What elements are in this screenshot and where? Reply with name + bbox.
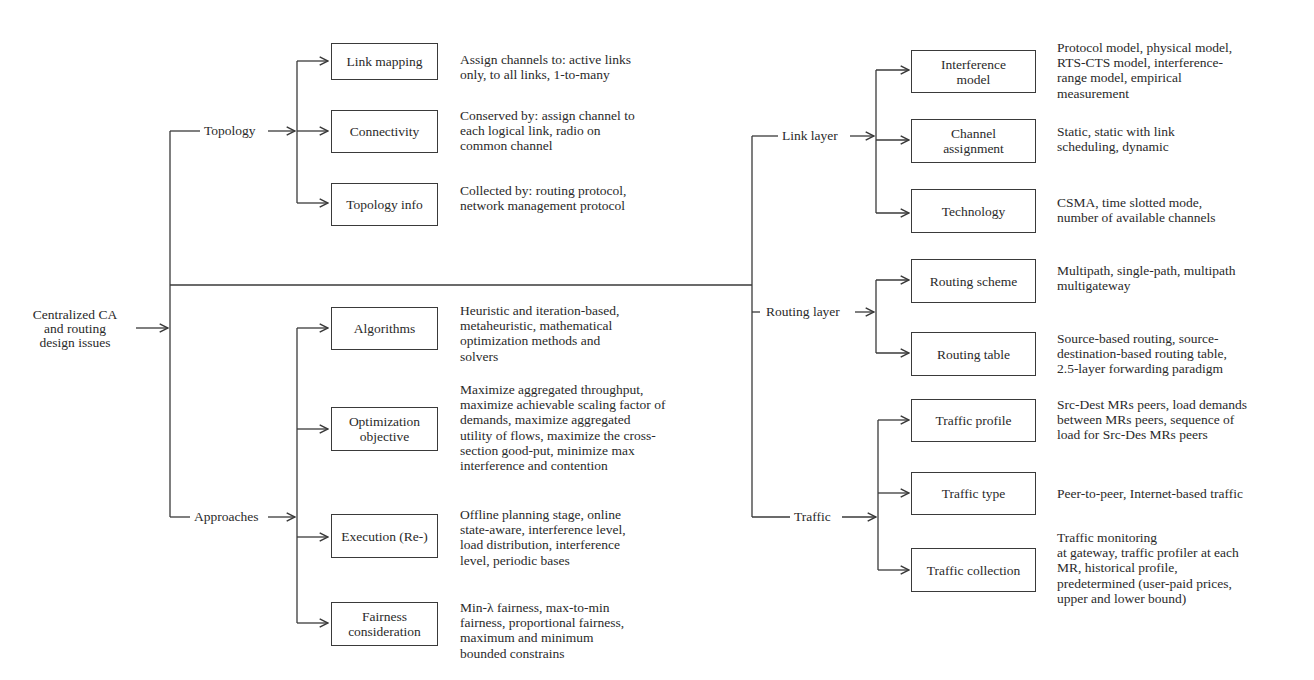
node-execution: Execution (Re-) [331, 514, 438, 558]
desc-routing-scheme: Multipath, single-path, multipath multig… [1057, 263, 1235, 293]
category-approaches: Approaches [192, 509, 260, 524]
desc-topology-info: Collected by: routing protocol, network … [460, 183, 626, 213]
node-connectivity: Connectivity [331, 110, 438, 153]
desc-algorithms: Heuristic and iteration-based, metaheuri… [460, 303, 619, 364]
node-algorithms: Algorithms [331, 307, 438, 350]
category-link-layer: Link layer [780, 128, 840, 143]
node-routing-scheme: Routing scheme [911, 259, 1036, 303]
desc-channel-assignment: Static, static with link scheduling, dyn… [1057, 124, 1175, 154]
node-routing-table: Routing table [911, 332, 1036, 376]
desc-execution: Offline planning stage, online state-awa… [460, 507, 626, 568]
desc-connectivity: Conserved by: assign channel to each log… [460, 108, 635, 154]
node-interference-model: Interference model [911, 50, 1036, 93]
desc-traffic-profile: Src-Dest MRs peers, load demands between… [1057, 397, 1247, 443]
node-optimization-objective: Optimization objective [331, 407, 438, 451]
desc-fairness-consideration: Min-λ fairness, max-to-min fairness, pro… [460, 600, 624, 661]
node-channel-assignment: Channel assignment [911, 119, 1036, 163]
desc-interference-model: Protocol model, physical model, RTS-CTS … [1057, 40, 1232, 101]
node-topology-info: Topology info [331, 183, 438, 226]
node-fairness-consideration: Fairness consideration [331, 602, 438, 646]
category-routing-layer: Routing layer [764, 304, 842, 319]
node-traffic-type: Traffic type [911, 472, 1036, 515]
desc-traffic-type: Peer-to-peer, Internet-based traffic [1057, 486, 1243, 501]
root-node-label: Centralized CA and routing design issues [10, 308, 140, 350]
node-traffic-collection: Traffic collection [911, 548, 1036, 592]
desc-traffic-collection: Traffic monitoring at gateway, traffic p… [1057, 530, 1239, 606]
desc-technology: CSMA, time slotted mode, number of avail… [1057, 195, 1216, 225]
node-link-mapping: Link mapping [331, 43, 438, 80]
desc-link-mapping: Assign channels to: active links only, t… [460, 52, 631, 82]
desc-optimization-objective: Maximize aggregated throughput, maximize… [460, 382, 665, 473]
desc-routing-table: Source-based routing, source- destinatio… [1057, 331, 1227, 377]
diagram-canvas: Centralized CA and routing design issues… [0, 0, 1314, 680]
node-technology: Technology [911, 189, 1036, 233]
category-topology: Topology [202, 123, 258, 138]
category-traffic: Traffic [792, 509, 833, 524]
node-traffic-profile: Traffic profile [911, 399, 1036, 442]
